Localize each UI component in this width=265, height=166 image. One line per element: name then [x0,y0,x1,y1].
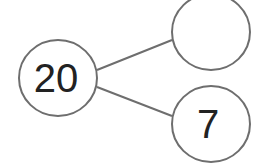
connector-line-top [97,40,172,70]
part-circle-top [172,0,250,70]
number-bond-diagram: 20 7 [0,0,265,166]
part-bottom-value: 7 [197,102,219,146]
whole-circle: 20 [19,40,97,116]
whole-value: 20 [34,56,79,100]
connector-line-bottom [97,87,172,116]
part-circle-bottom: 7 [172,86,250,162]
